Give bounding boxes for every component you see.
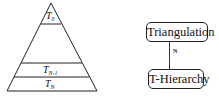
t-hierarchy-box: T-Hierarchy	[148, 69, 204, 89]
level-label-t0: T0	[46, 11, 55, 24]
triangulation-box: Triangulation	[146, 22, 208, 42]
relation-connector-line	[169, 42, 170, 69]
level-label-subscript: N-1	[49, 70, 58, 76]
cardinality-label: N	[173, 48, 177, 54]
level-label-tn-1: TN-1	[43, 65, 58, 78]
level-label-subscript: 0	[52, 16, 55, 22]
hierarchy-pyramid	[0, 0, 110, 98]
level-label-tn: TN	[45, 79, 55, 92]
level-label-subscript: N	[51, 84, 55, 90]
